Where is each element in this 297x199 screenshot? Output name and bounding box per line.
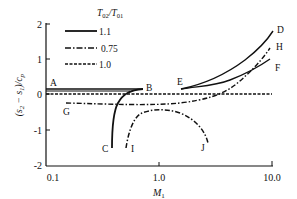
label-e: E bbox=[177, 77, 183, 87]
curve-c-b bbox=[112, 89, 143, 148]
legend-title: T02/T01 bbox=[97, 8, 123, 19]
label-c: C bbox=[102, 144, 108, 154]
label-f: F bbox=[275, 63, 280, 73]
entropy-mach-chart: 2 1 0 -1 -2 0.1 1.0 10.0 M1 (s2 − s1)/cp… bbox=[0, 0, 297, 199]
y-tick-1: 1 bbox=[37, 54, 42, 65]
label-g: G bbox=[63, 107, 70, 117]
y-tick-labels: 2 1 0 -1 -2 bbox=[34, 19, 42, 171]
legend-label-1-1: 1.1 bbox=[99, 27, 111, 37]
label-d: D bbox=[277, 25, 284, 35]
curve-i-j bbox=[126, 110, 208, 148]
curve-e-d bbox=[181, 31, 273, 89]
y-tick-neg1: -1 bbox=[34, 125, 42, 136]
legend-label-0-75: 0.75 bbox=[101, 44, 118, 54]
label-a: A bbox=[50, 78, 57, 88]
x-axis-label: M1 bbox=[152, 187, 165, 199]
label-j: J bbox=[201, 143, 205, 153]
y-tick-2: 2 bbox=[37, 19, 42, 30]
legend: T02/T01 1.1 0.75 1.0 bbox=[65, 8, 123, 70]
label-i: I bbox=[131, 144, 134, 154]
label-b: B bbox=[146, 83, 152, 93]
y-tick-0: 0 bbox=[37, 89, 42, 100]
x-tick-10-0: 10.0 bbox=[263, 172, 281, 183]
x-tick-1-0: 1.0 bbox=[153, 172, 166, 183]
x-tick-labels: 0.1 1.0 10.0 bbox=[47, 172, 281, 183]
y-tick-neg2: -2 bbox=[34, 160, 42, 171]
label-h: H bbox=[276, 42, 283, 52]
x-tick-0-1: 0.1 bbox=[47, 172, 60, 183]
y-axis-label: (s2 − s1)/cp bbox=[14, 73, 26, 116]
curve-e-f bbox=[181, 59, 270, 89]
legend-label-1-0: 1.0 bbox=[99, 60, 111, 70]
